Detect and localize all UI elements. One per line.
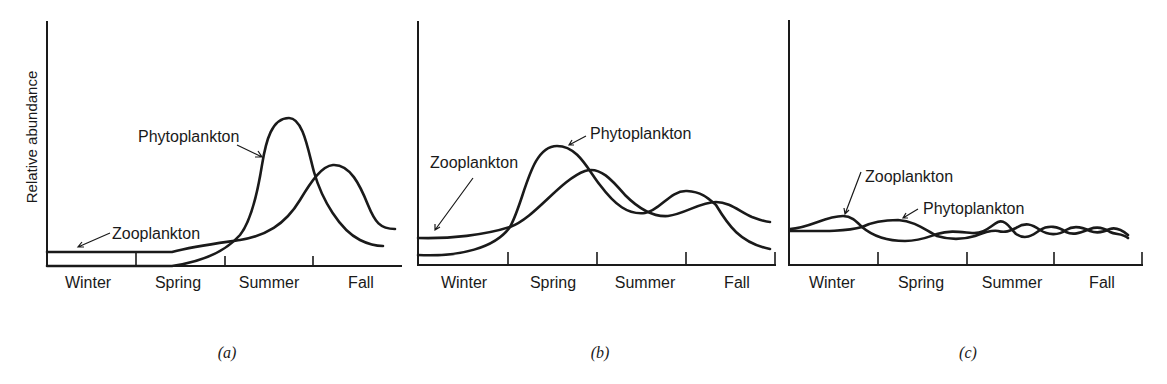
panel-a-season-fall: Fall bbox=[348, 274, 374, 291]
panel-a-phytoplankton-label: Phytoplankton bbox=[138, 128, 239, 145]
panel-c: Zooplankton Phytoplankton Winter Spring … bbox=[789, 20, 1143, 362]
y-axis-label: Relative abundance bbox=[23, 71, 40, 204]
panel-a-caption: (a) bbox=[218, 344, 237, 362]
plankton-seasonal-figure: Relative abundance Phytoplankton Zooplan… bbox=[0, 0, 1167, 384]
panel-a-season-winter: Winter bbox=[65, 274, 112, 291]
panel-a-zooplankton-curve bbox=[47, 165, 395, 252]
panel-b-axes bbox=[418, 21, 776, 265]
panel-c-phytoplankton-label: Phytoplankton bbox=[923, 200, 1024, 217]
panel-c-zooplankton-label: Zooplankton bbox=[865, 168, 953, 185]
panel-b-season-summer: Summer bbox=[615, 274, 676, 291]
panel-b-zooplankton-label: Zooplankton bbox=[430, 154, 518, 171]
panel-c-season-spring: Spring bbox=[898, 274, 944, 291]
panel-b-phyto-arrow bbox=[569, 136, 586, 145]
panel-c-season-summer: Summer bbox=[982, 274, 1043, 291]
panel-a: Phytoplankton Zooplankton Winter Spring … bbox=[47, 21, 402, 362]
panel-c-phytoplankton-curve bbox=[790, 220, 1128, 239]
panel-b: Phytoplankton Zooplankton Winter Spring … bbox=[418, 21, 776, 362]
panel-c-caption: (c) bbox=[959, 344, 977, 362]
panel-b-phytoplankton-label: Phytoplankton bbox=[590, 125, 691, 142]
panel-a-phyto-arrow bbox=[237, 145, 262, 157]
panel-a-zoo-arrow bbox=[78, 233, 110, 247]
panel-a-season-spring: Spring bbox=[155, 274, 201, 291]
panel-a-zooplankton-label: Zooplankton bbox=[112, 225, 200, 242]
panel-c-zoo-arrow bbox=[844, 172, 861, 214]
panel-c-season-winter: Winter bbox=[809, 274, 856, 291]
panel-b-season-winter: Winter bbox=[441, 274, 488, 291]
panel-b-zoo-arrow bbox=[435, 178, 473, 230]
panel-c-phyto-arrow bbox=[903, 209, 918, 218]
panel-b-season-fall: Fall bbox=[724, 274, 750, 291]
panel-a-season-summer: Summer bbox=[239, 274, 300, 291]
panel-b-caption: (b) bbox=[591, 344, 610, 362]
panel-c-season-fall: Fall bbox=[1089, 274, 1115, 291]
panel-b-season-spring: Spring bbox=[530, 274, 576, 291]
